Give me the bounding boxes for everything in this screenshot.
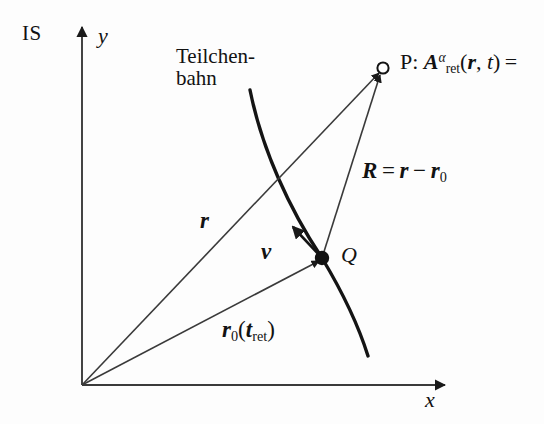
source-point-q-label: Q: [341, 243, 357, 266]
relation-minus-sign: −: [413, 158, 426, 183]
trajectory-label: Teilchen- bahn: [176, 45, 255, 89]
trajectory-label-line-1: Teilchen-: [176, 45, 255, 67]
x-axis-label: x: [425, 388, 435, 411]
position-r0-label: r0(tret): [222, 318, 275, 342]
position-r0-symbol: r: [222, 317, 231, 342]
potential-equals-sign: =: [505, 49, 517, 74]
position-time-subscript: ret: [252, 328, 267, 344]
potential-superscript-alpha: α: [439, 50, 446, 65]
potential-paren-close: ): [493, 49, 500, 74]
field-point-p-formula: P: Aαret(r, t) =: [400, 50, 517, 73]
potential-argument-comma: ,: [476, 49, 487, 74]
vector-r-label: r: [200, 209, 209, 233]
field-point-p-marker: [377, 62, 388, 73]
field-point-p-prefix: P:: [400, 49, 418, 74]
vector-R-relation-label: R = r − r0: [362, 159, 447, 183]
vector-r0-arrow: [82, 261, 319, 385]
relation-r0-subscript: 0: [440, 169, 447, 185]
potential-argument-r: r: [467, 49, 476, 74]
relation-equals-sign: =: [382, 158, 395, 183]
source-point-q-marker: [315, 251, 329, 265]
position-r0-subscript: 0: [231, 328, 238, 344]
potential-subscript-ret: ret: [446, 61, 460, 76]
relation-r0-symbol: r: [431, 158, 440, 183]
velocity-vector-label: v: [261, 240, 271, 264]
relation-r-symbol: r: [400, 158, 409, 183]
y-axis-label: y: [98, 24, 108, 47]
potential-symbol: A: [424, 49, 439, 74]
position-paren-open: (: [238, 317, 246, 342]
inertial-frame-label: IS: [22, 22, 42, 44]
trajectory-label-line-2: bahn: [176, 67, 255, 89]
retarded-potential-diagram: IS y x Teilchen- bahn r v Q R = r − r0 r…: [0, 0, 544, 424]
relation-R-symbol: R: [362, 158, 377, 183]
position-paren-close: ): [267, 317, 275, 342]
